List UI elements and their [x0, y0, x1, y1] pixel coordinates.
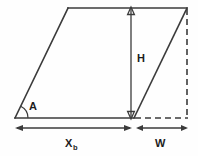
parallelogram-outline: [15, 8, 187, 118]
base-arrow-head-left: [15, 125, 23, 131]
parallelogram-left-edge: [15, 8, 68, 118]
width-arrow-head-left: [136, 125, 143, 131]
width-label: W: [155, 137, 166, 149]
geometry-figure: A H X b W: [0, 0, 198, 156]
angle-label: A: [29, 100, 37, 112]
height-label: H: [137, 52, 145, 64]
vertical-double-arrow-icon: [128, 7, 135, 119]
base-label: X: [65, 137, 73, 149]
horizontal-double-arrow-icon-base: [15, 125, 132, 131]
figure-canvas: A H X b W: [0, 0, 198, 156]
base-subscript-label: b: [73, 143, 78, 152]
base-arrow-head-right: [124, 125, 132, 131]
horizontal-double-arrow-icon-width: [136, 125, 188, 131]
angle-arc-icon: [21, 106, 28, 118]
width-arrow-head-right: [181, 125, 188, 131]
